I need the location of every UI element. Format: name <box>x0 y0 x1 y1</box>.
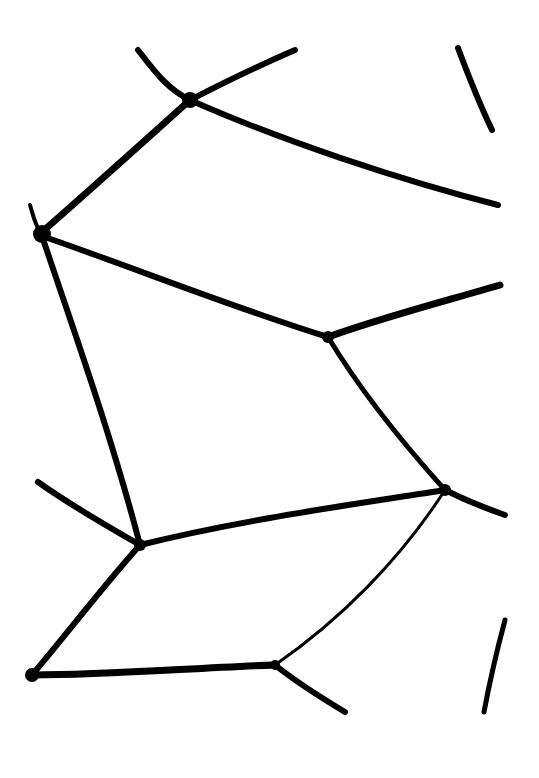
ink-stroke-top-to-upper-right <box>190 50 295 100</box>
ink-stroke-lower-faint-diagonal <box>275 490 445 665</box>
cell-network-drawing <box>0 0 539 778</box>
junction-node <box>182 92 198 108</box>
ink-stroke-upper-left-diagonal <box>42 100 190 232</box>
ink-stroke-bottom-right-sliver <box>484 620 505 712</box>
ink-stroke-lower-right-stub <box>445 490 505 515</box>
ink-stroke-top-right-sliver <box>458 48 492 130</box>
junction-node <box>322 331 334 343</box>
ink-stroke-top-left-upper <box>138 50 190 100</box>
junction-node <box>33 225 51 243</box>
ink-stroke-mid-right-upper <box>328 285 500 337</box>
junction-node <box>25 668 39 682</box>
ink-stroke-mid-horizontal <box>42 236 328 337</box>
junction-node <box>439 484 451 496</box>
ink-stroke-right-diagonal <box>328 337 445 490</box>
junction-node <box>134 539 146 551</box>
ink-stroke-bottom-horizontal <box>32 665 275 675</box>
ink-stroke-lower-mid-line <box>140 490 445 545</box>
ink-stroke-bottom-right-stub <box>275 665 345 712</box>
ink-stroke-lower-left-diagonal <box>32 545 140 675</box>
ink-stroke-upper-long-right <box>190 100 498 205</box>
ink-line-drawing <box>0 0 539 778</box>
ink-stroke-left-vertical <box>42 236 140 545</box>
junction-node <box>270 660 280 670</box>
